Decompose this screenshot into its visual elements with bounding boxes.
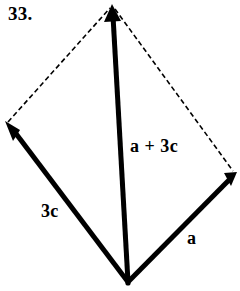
label-sum-vector: a + 3c	[130, 137, 178, 155]
problem-number: 33.	[8, 4, 32, 23]
figure-canvas: 33. a + 3c 3c a	[0, 0, 240, 291]
label-vector-a: a	[187, 229, 196, 247]
vector-a-shaft	[128, 180, 229, 282]
vector-sum-shaft	[113, 16, 128, 282]
bottom-vertex-node	[125, 280, 130, 285]
dashed-edge-left-top	[8, 8, 110, 122]
label-vector-3c: 3c	[41, 202, 59, 220]
vector-parallelogram-svg	[0, 0, 240, 291]
vector-3c-shaft	[14, 131, 128, 282]
